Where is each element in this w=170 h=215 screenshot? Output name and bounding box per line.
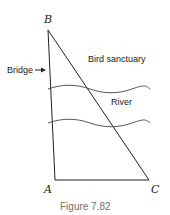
side-ab — [48, 30, 55, 180]
figure-caption: Figure 7.82 — [60, 201, 111, 212]
vertex-a-label: A — [43, 183, 52, 196]
bridge-label: Bridge — [7, 65, 33, 75]
side-bc — [48, 30, 149, 180]
river-bank-lower — [48, 119, 150, 127]
bird-sanctuary-label: Bird sanctuary — [88, 54, 146, 64]
river-bank-upper — [48, 85, 150, 93]
vertex-c-label: C — [151, 183, 160, 196]
river-label: River — [111, 97, 132, 107]
bridge-arrowhead-icon — [41, 68, 46, 73]
triangle-diagram: B A C Bridge Bird sanctuary River Figure… — [0, 0, 170, 215]
vertex-b-label: B — [43, 13, 52, 26]
